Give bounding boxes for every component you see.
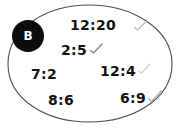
ratio-item-2: 7:2 [31,67,57,81]
ratio-item-0: 12:20 [70,18,116,32]
check-mark-icon-3 [137,62,151,76]
ratio-item-5: 6:9 [120,91,146,105]
ratio-item-3: 12:4 [100,64,136,78]
check-mark-icon-5 [148,90,162,104]
check-mark-icon-1 [89,42,103,56]
check-mark-icon-0 [133,19,147,33]
diagram-canvas: B 12:20 2:5 7:2 12:4 8:6 6:9 [0,0,178,129]
set-label-text: B [23,30,32,42]
ratio-item-1: 2:5 [61,43,87,57]
ratio-item-4: 8:6 [48,93,74,107]
set-label-badge: B [12,20,44,52]
